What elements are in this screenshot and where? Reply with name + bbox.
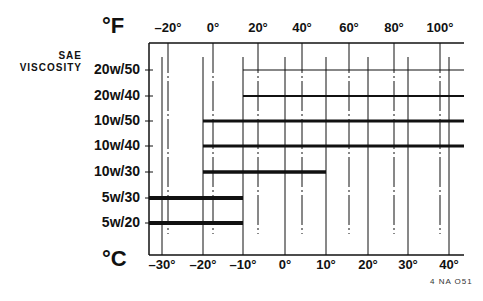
figure-code: 4 NA O51 <box>430 277 473 286</box>
row-label-10w50: 10w/50 <box>50 112 140 128</box>
celsius-unit-label: °C <box>102 246 127 272</box>
celsius-gridlines <box>162 57 449 255</box>
f-tick-label: 80° <box>384 20 404 35</box>
fahrenheit-unit-label: °F <box>102 13 124 39</box>
row-label-5w30: 5w/30 <box>50 189 140 205</box>
f-tick-label: 60° <box>339 20 359 35</box>
row-label-20w50: 20w/50 <box>50 61 140 77</box>
c-tick-label: –30° <box>149 257 176 272</box>
f-tick-label: 40° <box>292 20 312 35</box>
c-tick-label: 0° <box>279 257 291 272</box>
f-tick-label: 0° <box>207 20 219 35</box>
f-tick-label: –20° <box>155 20 182 35</box>
c-tick-label: 10° <box>316 257 336 272</box>
row-label-5w20: 5w/20 <box>50 214 140 230</box>
row-label-10w40: 10w/40 <box>50 137 140 153</box>
row-label-10w30: 10w/30 <box>50 163 140 179</box>
c-tick-label: –20° <box>190 257 217 272</box>
c-tick-label: 30° <box>398 257 418 272</box>
row-label-20w40: 20w/40 <box>50 87 140 103</box>
c-tick-label: 20° <box>358 257 378 272</box>
range-bars <box>149 70 464 223</box>
fahrenheit-gridlines <box>168 43 440 234</box>
c-tick-label: 40° <box>439 257 459 272</box>
f-tick-label: 100° <box>427 20 454 35</box>
f-tick-label: 20° <box>248 20 268 35</box>
c-tick-label: –10° <box>230 257 257 272</box>
